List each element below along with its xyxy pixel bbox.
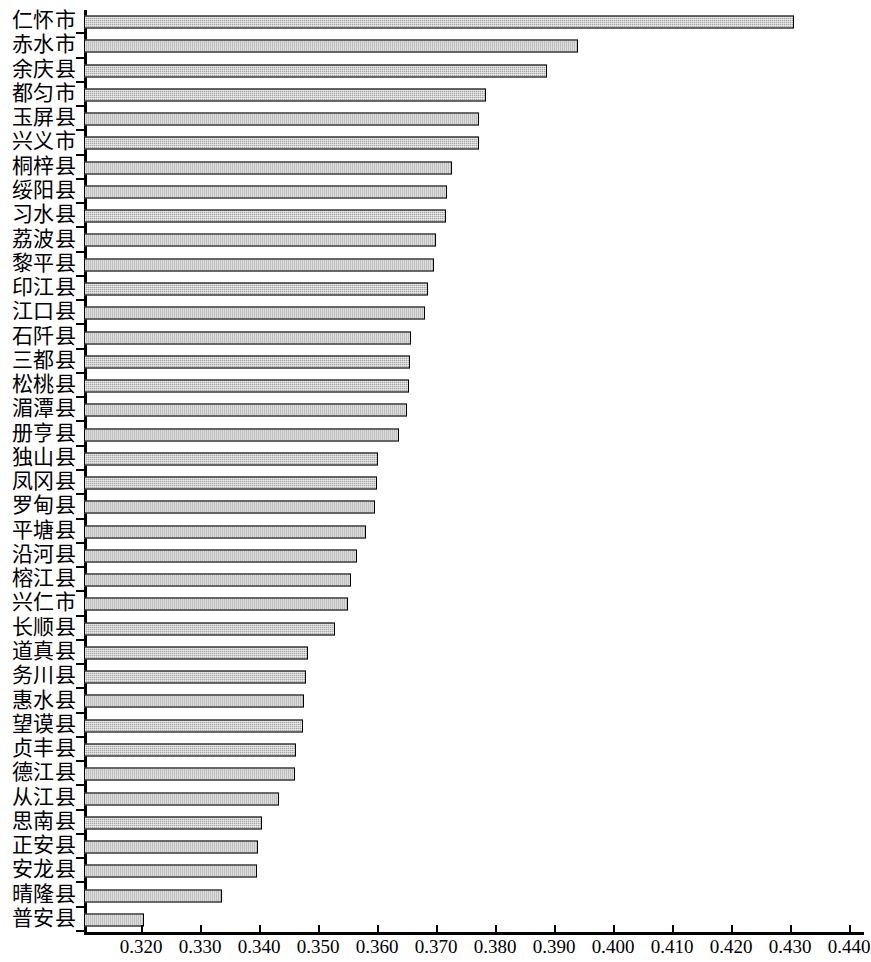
y-axis-tick <box>76 81 84 83</box>
category-label: 江口县 <box>12 301 77 322</box>
bar-row <box>84 398 864 422</box>
category-label: 凤冈县 <box>12 471 77 492</box>
x-axis-tick-label: 0.390 <box>533 937 576 957</box>
bar-row <box>84 786 864 810</box>
x-axis-tick <box>731 925 733 935</box>
x-axis-tick <box>672 925 674 935</box>
y-axis-tick <box>76 323 84 325</box>
bar <box>84 477 377 490</box>
bar <box>84 40 578 53</box>
x-axis-tick-label: 0.410 <box>651 937 694 957</box>
bar-row <box>84 738 864 762</box>
y-axis-tick <box>76 275 84 277</box>
y-axis-tick <box>76 857 84 859</box>
x-axis-tick <box>259 925 261 935</box>
y-axis-tick <box>76 881 84 883</box>
x-axis-tick-label: 0.400 <box>592 937 635 957</box>
value-axis-ticks: 0.3200.3300.3400.3500.3600.3700.3800.390… <box>84 925 864 962</box>
x-axis-tick <box>200 925 202 935</box>
bar <box>84 161 452 174</box>
bar <box>84 210 446 223</box>
category-label: 荔波县 <box>12 229 77 250</box>
bar <box>84 598 348 611</box>
bar-row <box>84 83 864 107</box>
bar <box>84 283 428 296</box>
bar <box>84 768 295 781</box>
category-label: 长顺县 <box>12 617 77 638</box>
bar <box>84 185 447 198</box>
y-axis-tick <box>76 930 84 932</box>
y-axis-tick <box>76 32 84 34</box>
y-axis-tick <box>76 420 84 422</box>
category-label: 都匀市 <box>12 83 77 104</box>
x-axis-tick <box>849 925 851 935</box>
category-label: 兴仁市 <box>12 592 77 613</box>
y-axis-tick <box>76 809 84 811</box>
category-label: 印江县 <box>12 277 77 298</box>
y-axis-tick <box>76 469 84 471</box>
bar <box>84 889 222 902</box>
x-axis-tick-label: 0.340 <box>238 937 281 957</box>
bar-row <box>84 544 864 568</box>
bar-row <box>84 883 864 907</box>
bar <box>84 380 409 393</box>
category-label: 桐梓县 <box>12 156 77 177</box>
bar <box>84 428 399 441</box>
category-axis-labels: 仁怀市赤水市余庆县都匀市玉屏县兴义市桐梓县绥阳县习水县荔波县黎平县印江县江口县石… <box>0 10 80 932</box>
x-axis-tick-label: 0.360 <box>356 937 399 957</box>
bar-row <box>84 107 864 131</box>
x-axis-tick-label: 0.430 <box>769 937 812 957</box>
y-axis-tick <box>76 784 84 786</box>
bar <box>84 501 375 514</box>
category-label: 兴义市 <box>12 131 77 152</box>
bar-row <box>84 520 864 544</box>
bar <box>84 452 378 465</box>
bar <box>84 88 486 101</box>
category-label: 安龙县 <box>12 859 77 880</box>
category-label: 独山县 <box>12 447 77 468</box>
bar <box>84 16 794 29</box>
bar-row <box>84 617 864 641</box>
y-axis-tick <box>76 712 84 714</box>
y-axis-tick <box>76 154 84 156</box>
plot-area <box>84 10 864 935</box>
y-axis-tick <box>76 663 84 665</box>
category-label: 黎平县 <box>12 253 77 274</box>
bar <box>84 744 296 757</box>
bar <box>84 719 303 732</box>
y-axis-tick <box>76 226 84 228</box>
y-axis-tick <box>76 251 84 253</box>
bar <box>84 574 351 587</box>
bar <box>84 695 304 708</box>
bar-row <box>84 10 864 34</box>
category-label: 望谟县 <box>12 714 77 735</box>
x-axis-tick-label: 0.420 <box>710 937 753 957</box>
bar <box>84 258 434 271</box>
category-label: 德江县 <box>12 762 77 783</box>
bar-row <box>84 277 864 301</box>
category-label: 务川县 <box>12 665 77 686</box>
bar-row <box>84 495 864 519</box>
category-label: 湄潭县 <box>12 398 77 419</box>
y-axis-tick <box>76 590 84 592</box>
x-axis-tick <box>436 925 438 935</box>
bar-row <box>84 374 864 398</box>
y-axis-tick <box>76 57 84 59</box>
y-axis-tick <box>76 566 84 568</box>
category-label: 惠水县 <box>12 690 77 711</box>
y-axis-tick <box>76 760 84 762</box>
category-label: 从江县 <box>12 787 77 808</box>
bar-row <box>84 859 864 883</box>
bar <box>84 865 257 878</box>
bar-row <box>84 641 864 665</box>
bar-row <box>84 568 864 592</box>
y-axis-tick <box>76 906 84 908</box>
bar <box>84 137 479 150</box>
bar-series <box>84 10 864 932</box>
category-label: 普安县 <box>12 908 77 929</box>
category-label: 石阡县 <box>12 326 77 347</box>
bar-row <box>84 350 864 374</box>
bar <box>84 841 258 854</box>
y-axis-tick <box>76 833 84 835</box>
bar-row <box>84 325 864 349</box>
